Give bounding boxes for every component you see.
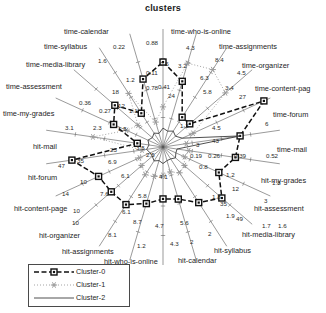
tick-label: 0.52: [266, 152, 278, 159]
axis-label-time-my-grades: time-my-grades: [3, 110, 54, 118]
legend-swatch-icon: [32, 292, 76, 304]
tick-label: 0.36: [79, 99, 91, 106]
tick-label: 0.8: [199, 163, 208, 170]
axis-label-time-who-is-online: time-who-is-online: [171, 28, 231, 36]
tick-label: 3: [264, 197, 267, 204]
tick-label: 35: [77, 157, 84, 164]
tick-label: 6: [265, 120, 268, 127]
axis-label-hit-content-page: hit-content-page: [14, 205, 67, 213]
tick-label: 3.4: [225, 84, 234, 91]
axis-label-hit-syllabus: hit-syllabus: [214, 247, 251, 255]
tick-label: 10: [80, 178, 87, 185]
radar-chart: clusters time-calendartime-who-is-online…: [0, 0, 326, 313]
tick-label: 3.1: [65, 124, 74, 131]
tick-label: 5.6: [180, 219, 189, 226]
tick-label: 1.7: [262, 222, 271, 229]
tick-label: 2.3: [93, 124, 102, 131]
tick-label: 2: [190, 238, 193, 245]
tick-label: 5.8: [203, 88, 212, 95]
tick-label: 3.2: [178, 62, 187, 69]
tick-label: 0.22: [113, 43, 125, 50]
axis-label-time-calendar: time-calendar: [64, 28, 109, 36]
legend-swatch-icon: [32, 266, 76, 278]
tick-label: 0.41: [158, 83, 170, 90]
tick-label: 10: [72, 219, 79, 226]
tick-label: 18: [112, 88, 119, 95]
axis-label-time-forum: time-forum: [273, 111, 308, 119]
legend-label: Cluster-1: [76, 280, 105, 289]
tick-label: 10: [73, 207, 80, 214]
chart-legend: Cluster-0Cluster-1Cluster-2: [28, 264, 130, 307]
tick-label: 4.3: [186, 44, 195, 51]
tick-label: 3.5: [136, 144, 145, 151]
tick-label: 1.1: [129, 107, 138, 114]
tick-label: 0.5: [160, 60, 169, 67]
axis-label-hit-my-grades: hit-my-grades: [261, 177, 306, 185]
tick-label: 1.5: [118, 125, 127, 132]
tick-label: 5.8: [138, 192, 147, 199]
tick-label: 43: [212, 137, 219, 144]
tick-label: 1.9: [226, 212, 235, 219]
tick-label: 4.5: [237, 69, 246, 76]
tick-label: 4.5: [212, 124, 221, 131]
tick-label: 47: [58, 162, 65, 169]
tick-label: 6.1: [121, 172, 130, 179]
tick-label: 6.1: [122, 208, 131, 215]
axis-label-hit-media-library: hit-media-library: [242, 231, 295, 239]
legend-item-cluster-0[interactable]: Cluster-0: [29, 265, 129, 278]
axis-label-hit-forum: hit-forum: [28, 174, 57, 182]
tick-label: 24: [168, 92, 175, 99]
tick-label: 0.88: [146, 39, 158, 46]
tick-label: 0.26: [208, 152, 220, 159]
axis-label-hit-mail: hit-mail: [33, 143, 57, 151]
legend-label: Cluster-2: [76, 293, 105, 302]
axis-label-hit-assessment: hit-assessment: [254, 205, 304, 213]
tick-label: 1.2: [126, 76, 135, 83]
axis-label-hit-assignments: hit-assignments: [62, 248, 114, 256]
legend-label: Cluster-0: [76, 267, 105, 276]
axis-label-time-assignments: time-assignments: [219, 43, 277, 51]
tick-label: 23: [110, 146, 117, 153]
tick-label: 27: [239, 93, 246, 100]
tick-label: 6.9: [108, 158, 117, 165]
tick-label: 0.11: [146, 69, 158, 76]
tick-label: 14: [62, 190, 69, 197]
tick-label: 49: [236, 215, 243, 222]
tick-label: 12: [118, 102, 125, 109]
tick-label: 6.3: [200, 74, 209, 81]
legend-item-cluster-1[interactable]: Cluster-1: [29, 278, 129, 291]
tick-label: 1.6: [278, 222, 287, 229]
tick-label: 0.78: [146, 84, 158, 91]
legend-swatch-icon: [32, 279, 76, 291]
axis-label-time-assessment: time-assessment: [6, 83, 62, 91]
tick-label: 8.1: [108, 231, 117, 238]
tick-label: 12: [232, 185, 239, 192]
tick-label: 35: [220, 200, 227, 207]
legend-item-cluster-2[interactable]: Cluster-2: [29, 291, 129, 304]
tick-label: 1.8: [212, 193, 221, 200]
tick-label: 3: [196, 141, 199, 148]
axis-label-time-mail: time-mail: [277, 146, 307, 154]
axis-label-time-media-library: time-media-library: [26, 61, 85, 69]
axis-label-time-content-pag: time-content-pag: [255, 85, 310, 93]
tick-label: 4.3: [170, 240, 179, 247]
tick-label: 4.1: [159, 173, 168, 180]
tick-label: 1.3: [180, 122, 189, 129]
tick-label: 8.4: [215, 56, 224, 63]
tick-label: 0.19: [190, 152, 202, 159]
tick-label: 0.39: [234, 152, 246, 159]
tick-label: 7.6: [100, 190, 109, 197]
tick-label: 4.7: [155, 222, 164, 229]
tick-label: 8.7: [133, 218, 142, 225]
axis-label-time-organizer: time-organizer: [242, 62, 289, 70]
tick-label: 1.6: [98, 57, 107, 64]
axis-label-time-syllabus: time-syllabus: [44, 43, 87, 51]
tick-label: 0.27: [99, 107, 111, 114]
axis-label-hit-calendar: hit-calendar: [178, 257, 217, 265]
tick-label: 1.8: [272, 179, 281, 186]
tick-label: 1.2: [226, 171, 235, 178]
tick-label: 2: [208, 230, 211, 237]
tick-label: 1.2: [137, 242, 146, 249]
tick-label: 2.5: [146, 151, 155, 158]
axis-label-hit-organizer: hit-organizer: [39, 232, 80, 240]
